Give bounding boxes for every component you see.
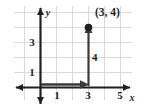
y-tick-label-3: 3 [29,36,35,48]
y-tick-label-1: 1 [29,66,35,78]
point-coordinate-label: (3, 4) [95,6,120,19]
coordinate-plane-svg: (3, 4) 4 1 3 5 1 3 x y [0,0,144,112]
x-axis-name-label: x [129,92,135,103]
data-point-3-4[interactable] [85,24,93,32]
y-axis-name-label: y [45,7,51,18]
coordinate-plane-figure: (3, 4) 4 1 3 5 1 3 x y [0,0,144,112]
x-tick-label-1: 1 [54,89,60,101]
vertical-rise-label: 4 [92,51,98,63]
x-tick-label-5: 5 [117,89,123,101]
x-tick-label-3: 3 [85,89,91,101]
